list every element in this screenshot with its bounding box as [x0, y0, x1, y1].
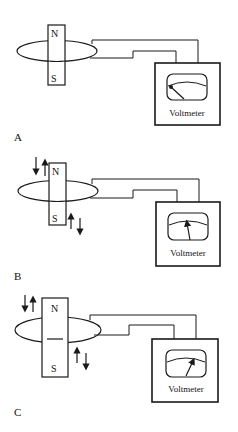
south-pole-label: S: [51, 73, 57, 84]
panel-a: N S Voltmeter A: [14, 25, 220, 143]
induction-diagram: N S Voltmeter A N S Voltmeter B: [0, 0, 238, 432]
north-pole-label: N: [51, 303, 58, 314]
south-pole-label: S: [51, 363, 57, 374]
panel-label: B: [14, 270, 21, 282]
voltmeter-label: Voltmeter: [168, 384, 203, 394]
north-pole-label: N: [51, 28, 58, 39]
panel-label: C: [14, 406, 21, 418]
wire-bottom: [94, 325, 174, 339]
voltmeter-label: Voltmeter: [169, 108, 204, 118]
north-pole-label: N: [52, 166, 59, 177]
voltmeter-label: Voltmeter: [170, 248, 205, 258]
south-pole-label: S: [52, 213, 58, 224]
panel-label: A: [14, 131, 22, 143]
needle-tip: [169, 85, 173, 89]
wire-bottom: [90, 51, 176, 63]
voltmeter-dial: [166, 350, 206, 377]
wire-bottom: [90, 190, 177, 202]
panel-c: N S Voltmeter C: [14, 295, 218, 418]
panel-b: N S Voltmeter B: [14, 157, 220, 282]
